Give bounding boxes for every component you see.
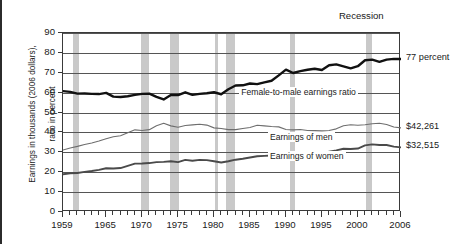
x-tick-mark (62, 211, 63, 217)
series-line (63, 123, 401, 150)
x-tick-label: 1970 (121, 219, 161, 230)
x-tick-label: 2006 (380, 219, 420, 230)
x-tick-label: 1965 (85, 219, 125, 230)
series-label-women: Earnings of women (268, 151, 346, 161)
x-tick-mark (271, 211, 272, 215)
x-tick-mark (371, 211, 372, 215)
plot-area: Female-to-male earnings ratio Earnings o… (62, 32, 400, 211)
x-tick-mark (91, 211, 92, 215)
figure-left-rule (0, 0, 2, 244)
y-tick-label: 30 (33, 145, 55, 156)
x-tick-mark (285, 211, 286, 217)
y-tick-mark (58, 32, 62, 33)
x-tick-label: 1995 (301, 219, 341, 230)
x-tick-mark (120, 211, 121, 215)
x-tick-mark (177, 211, 178, 217)
x-tick-mark (314, 211, 315, 215)
x-tick-mark (378, 211, 379, 215)
series-line (63, 144, 401, 174)
y-tick-mark (58, 52, 62, 53)
y-tick-mark (58, 131, 62, 132)
callout-ratio-value: 77 percent (406, 52, 449, 62)
x-tick-mark (249, 211, 250, 217)
x-tick-mark (98, 211, 99, 215)
y-tick-mark (58, 72, 62, 73)
x-tick-label: 1990 (265, 219, 305, 230)
x-tick-label: 1980 (193, 219, 233, 230)
x-tick-mark (76, 211, 77, 215)
callout-women-value: $32,515 (406, 140, 439, 150)
recession-label: Recession (339, 10, 384, 21)
y-tick-label: 40 (33, 125, 55, 136)
x-tick-mark (163, 211, 164, 215)
x-tick-mark (242, 211, 243, 215)
y-tick-mark (58, 151, 62, 152)
y-tick-mark (58, 191, 62, 192)
x-tick-mark (199, 211, 200, 215)
x-tick-label: 1985 (229, 219, 269, 230)
x-tick-mark (307, 211, 308, 215)
x-tick-label: 1975 (157, 219, 197, 230)
x-tick-mark (105, 211, 106, 217)
callout-men-value: $42,261 (406, 121, 439, 131)
x-tick-label: 1959 (42, 219, 82, 230)
x-tick-mark (213, 211, 214, 217)
y-tick-label: 50 (33, 106, 55, 117)
x-tick-mark (342, 211, 343, 215)
y-tick-label: 70 (33, 66, 55, 77)
series-label-ratio: Female-to-male earnings ratio (239, 87, 358, 97)
earnings-chart-figure: Earnings in thousands (2006 dollars), ra… (0, 0, 462, 244)
x-tick-mark (184, 211, 185, 215)
y-tick-label: 80 (33, 46, 55, 57)
x-tick-mark (292, 211, 293, 215)
series-lines (63, 33, 401, 212)
x-tick-mark (256, 211, 257, 215)
x-tick-mark (278, 211, 279, 215)
x-tick-mark (393, 211, 394, 215)
x-tick-mark (299, 211, 300, 215)
x-tick-mark (235, 211, 236, 215)
x-tick-mark (127, 211, 128, 215)
y-tick-label: 0 (33, 205, 55, 216)
x-tick-mark (69, 211, 70, 215)
x-tick-mark (84, 211, 85, 215)
y-tick-mark (58, 171, 62, 172)
x-tick-mark (227, 211, 228, 215)
x-tick-mark (220, 211, 221, 215)
x-tick-mark (170, 211, 171, 215)
x-tick-mark (321, 211, 322, 217)
y-tick-label: 60 (33, 86, 55, 97)
x-tick-mark (364, 211, 365, 215)
y-tick-label: 10 (33, 185, 55, 196)
x-tick-mark (191, 211, 192, 215)
x-tick-mark (112, 211, 113, 215)
y-tick-label: 20 (33, 165, 55, 176)
y-tick-mark (58, 92, 62, 93)
x-tick-mark (206, 211, 207, 215)
x-tick-mark (335, 211, 336, 215)
series-label-men: Earnings of men (268, 132, 335, 142)
x-tick-mark (134, 211, 135, 215)
x-tick-mark (350, 211, 351, 215)
x-tick-mark (155, 211, 156, 215)
x-tick-mark (328, 211, 329, 215)
x-tick-mark (263, 211, 264, 215)
x-tick-mark (141, 211, 142, 217)
x-tick-label: 2000 (337, 219, 377, 230)
x-tick-mark (386, 211, 387, 215)
y-tick-mark (58, 112, 62, 113)
x-tick-mark (400, 211, 401, 217)
x-tick-mark (148, 211, 149, 215)
x-tick-mark (357, 211, 358, 217)
y-tick-label: 90 (33, 26, 55, 37)
